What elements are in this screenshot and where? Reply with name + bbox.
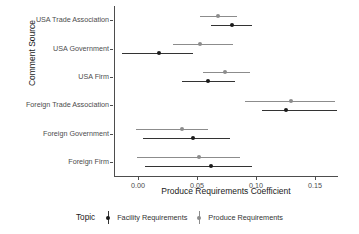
legend-label-facility: Facility Requirements bbox=[117, 213, 187, 222]
legend-key-produce[interactable]: Produce Requirements bbox=[196, 211, 283, 224]
point-range-icon bbox=[196, 211, 203, 224]
x-tick-mark bbox=[138, 177, 139, 180]
estimate-point bbox=[157, 51, 161, 55]
y-tick-label: USA Government bbox=[8, 45, 109, 52]
estimate-point bbox=[216, 14, 220, 18]
y-axis-line bbox=[114, 6, 115, 176]
estimate-point bbox=[223, 70, 227, 74]
confidence-interval-bar bbox=[262, 110, 337, 111]
y-tick-mark bbox=[110, 162, 113, 163]
estimate-point bbox=[206, 79, 210, 83]
x-axis-line bbox=[114, 176, 338, 177]
y-tick-mark bbox=[110, 49, 113, 50]
y-tick-mark bbox=[110, 134, 113, 135]
y-tick-mark bbox=[110, 105, 113, 106]
estimate-point bbox=[289, 99, 293, 103]
confidence-interval-bar bbox=[137, 157, 240, 158]
estimate-point bbox=[209, 164, 213, 168]
x-tick-mark bbox=[315, 177, 316, 180]
chart-root: Comment Source USA Trade AssociationUSA … bbox=[0, 0, 359, 234]
y-tick-label: Foreign Government bbox=[8, 130, 109, 137]
legend-label-produce: Produce Requirements bbox=[208, 213, 283, 222]
y-tick-label: USA Firm bbox=[8, 73, 109, 80]
estimate-point bbox=[197, 155, 201, 159]
legend-key-facility[interactable]: Facility Requirements bbox=[105, 211, 187, 224]
y-tick-label: Foreign Trade Association bbox=[8, 101, 109, 108]
confidence-interval-bar bbox=[145, 166, 252, 167]
confidence-interval-bar bbox=[173, 44, 233, 45]
estimate-point bbox=[284, 108, 288, 112]
estimate-point bbox=[191, 136, 195, 140]
legend-title: Topic bbox=[76, 213, 95, 222]
y-tick-label: Foreign Firm bbox=[8, 158, 109, 165]
estimate-point bbox=[230, 23, 234, 27]
estimate-point bbox=[180, 127, 184, 131]
y-tick-mark bbox=[110, 77, 113, 78]
plot-panel: 0.000.050.100.15 bbox=[114, 6, 338, 176]
x-tick-mark bbox=[197, 177, 198, 180]
point-range-icon bbox=[105, 211, 112, 224]
confidence-interval-bar bbox=[143, 138, 230, 139]
y-tick-label: USA Trade Association bbox=[8, 16, 109, 23]
confidence-interval-bar bbox=[136, 129, 208, 130]
estimate-point bbox=[198, 42, 202, 46]
x-tick-mark bbox=[256, 177, 257, 180]
x-axis-title: Produce Requirements Coefficient bbox=[114, 186, 338, 196]
y-tick-mark bbox=[110, 20, 113, 21]
legend: Topic Facility Requirements Produce Requ… bbox=[0, 206, 359, 228]
